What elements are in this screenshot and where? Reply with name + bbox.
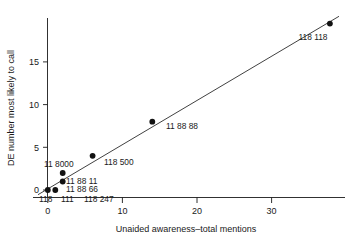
data-point-group	[45, 21, 333, 193]
y-tick-label-10: 10	[29, 100, 39, 110]
y-tick-group: 0 5 10 15	[29, 57, 48, 195]
x-tick-label-30: 30	[267, 206, 277, 216]
annotation-11-8000: 11 8000	[44, 159, 74, 169]
annotation-11-88-66: 11 88 66	[66, 184, 98, 194]
x-tick-label-10: 10	[117, 206, 127, 216]
data-point[interactable]	[60, 179, 66, 185]
data-point[interactable]	[90, 153, 96, 159]
annotation-118-247: 118 247	[84, 194, 114, 204]
annotation-11-88-88: 11 88 88	[166, 121, 198, 131]
annotation-118-500: 118 500	[104, 157, 134, 167]
annotation-group: 118 118 11 88 88 118 500 11 8000 11 88 1…	[39, 32, 328, 204]
data-point[interactable]	[60, 170, 66, 176]
data-point[interactable]	[52, 187, 58, 193]
annotation-118: 118	[39, 194, 53, 204]
y-tick-label-15: 15	[29, 57, 39, 67]
data-point[interactable]	[149, 119, 155, 125]
chart-canvas: 0 5 10 15 0 10 20 30 Unaided awareness–t…	[0, 0, 353, 241]
y-axis-title: DE number most likely to call	[6, 50, 16, 166]
scatter-chart: 0 5 10 15 0 10 20 30 Unaided awareness–t…	[0, 0, 353, 241]
regression-line	[38, 16, 339, 194]
x-tick-label-0: 0	[45, 206, 50, 216]
x-tick-group: 0 10 20 30	[45, 198, 276, 217]
y-tick-label-5: 5	[34, 143, 39, 153]
annotation-111: 111	[61, 194, 74, 204]
x-tick-label-20: 20	[192, 206, 202, 216]
x-axis-title: Unaided awareness–total mentions	[116, 224, 257, 234]
annotation-118-118: 118 118	[298, 32, 327, 42]
data-point[interactable]	[327, 21, 333, 27]
data-point[interactable]	[45, 187, 51, 193]
